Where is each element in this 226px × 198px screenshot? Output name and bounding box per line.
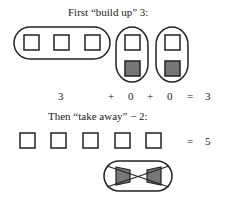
plus-sign: + xyxy=(147,90,153,102)
positive-tile xyxy=(83,133,98,148)
positive-tile xyxy=(54,35,69,50)
positive-tile xyxy=(20,133,35,148)
equals-sign: = xyxy=(187,90,193,102)
take-away-title: Then “take away” − 2: xyxy=(48,110,148,122)
term-zero: 0 xyxy=(167,90,173,102)
positive-tile xyxy=(146,133,161,148)
result-value: 3 xyxy=(205,90,211,102)
positive-tile xyxy=(125,35,140,50)
term-three: 3 xyxy=(58,90,64,102)
positive-tile xyxy=(24,35,39,50)
plus-sign: + xyxy=(108,90,114,102)
term-zero: 0 xyxy=(128,90,134,102)
positive-tile xyxy=(85,35,100,50)
negative-tile xyxy=(165,61,180,76)
positive-tile xyxy=(115,133,130,148)
positive-tile xyxy=(165,35,180,50)
positive-tile xyxy=(51,133,66,148)
result-value: 5 xyxy=(205,135,211,147)
equals-sign: = xyxy=(187,135,193,147)
negative-tile xyxy=(125,61,140,76)
